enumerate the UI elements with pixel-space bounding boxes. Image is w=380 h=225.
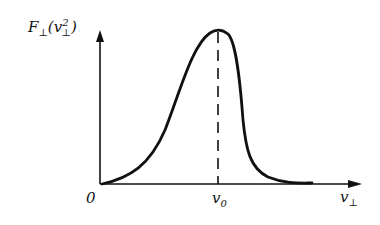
distribution-curve: [102, 30, 312, 184]
peak-label: v0: [212, 191, 227, 209]
x-axis-label: v⊥: [340, 190, 358, 208]
y-axis-arrow-icon: [96, 30, 104, 42]
origin-label: 0: [86, 191, 96, 206]
y-axis-label: F⊥(v2⊥): [28, 18, 77, 38]
x-axis-arrow-icon: [348, 180, 362, 188]
